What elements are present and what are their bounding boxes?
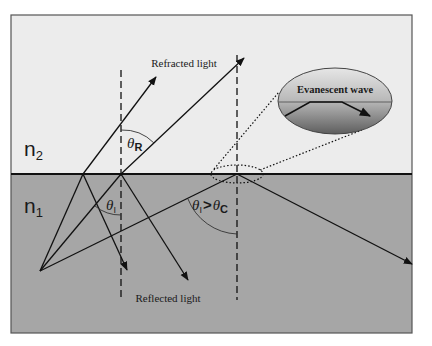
evanescent-wave-inset: Evanescent wave <box>278 68 392 134</box>
reflected-light-label: Reflected light <box>135 292 200 304</box>
refracted-light-label: Refracted light <box>151 57 217 69</box>
tir-diagram: Evanescent wave Refracted light Reflecte… <box>0 0 432 346</box>
evanescent-wave-label: Evanescent wave <box>297 84 373 95</box>
